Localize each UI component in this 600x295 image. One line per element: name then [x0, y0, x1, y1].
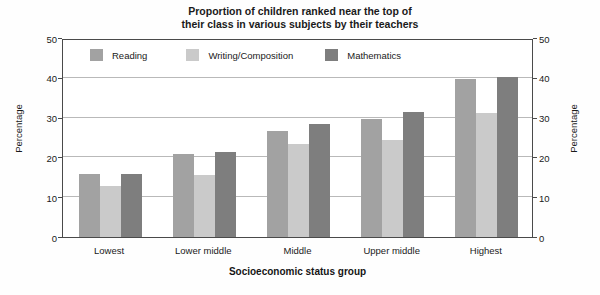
bar: [403, 112, 424, 237]
bar: [476, 113, 497, 237]
y-axis-right-tick-0: 0: [539, 234, 544, 244]
tickmark-right-30: [533, 118, 537, 119]
bar: [194, 175, 215, 237]
chart-title-line-1: Proportion of children ranked near the t…: [130, 5, 470, 18]
bar: [361, 119, 382, 237]
y-axis-right-tick-labels: 01020304050: [539, 39, 565, 238]
chart-figure: Proportion of children ranked near the t…: [0, 0, 600, 295]
bar-group: [251, 40, 345, 237]
legend-entry: Mathematics: [325, 49, 401, 61]
legend-swatch-icon: [186, 49, 199, 61]
bar: [455, 79, 476, 237]
y-axis-right-tick-50: 50: [539, 35, 550, 45]
bar: [173, 154, 194, 237]
legend-entry: Reading: [90, 49, 147, 61]
bar: [121, 174, 142, 237]
x-axis-tick-label: Highest: [439, 245, 533, 256]
legend-label: Writing/Composition: [208, 50, 293, 61]
tickmark-right-20: [533, 157, 537, 158]
bar: [100, 186, 121, 237]
bar: [497, 77, 518, 237]
tickmark-right-40: [533, 78, 537, 79]
y-axis-right-tickmarks: [533, 39, 537, 238]
y-axis-right-tick-20: 20: [539, 154, 550, 164]
y-axis-right-tick-40: 40: [539, 74, 550, 84]
y-axis-left-title: Percentage: [13, 89, 24, 169]
bar: [382, 140, 403, 238]
y-axis-left-tick-10: 10: [46, 194, 57, 204]
bar-group: [157, 40, 251, 237]
y-axis-left-tick-50: 50: [46, 35, 57, 45]
chart-legend: ReadingWriting/CompositionMathematics: [90, 47, 401, 63]
x-axis-tick-labels: LowestLower middleMiddleUpper middleHigh…: [62, 245, 533, 259]
bar: [215, 152, 236, 237]
y-axis-left-tick-labels: 01020304050: [28, 39, 57, 238]
legend-swatch-icon: [325, 49, 338, 61]
tickmark-right-50: [533, 38, 537, 39]
x-axis-tick-label: Middle: [250, 245, 344, 256]
bar-group: [63, 40, 157, 237]
tickmark-right-0: [533, 237, 537, 238]
legend-label: Mathematics: [347, 50, 401, 61]
bar: [309, 124, 330, 237]
bar-group: [346, 40, 440, 237]
bars-layer: [63, 40, 532, 237]
chart-title-line-2: their class in various subjects by their…: [130, 18, 470, 31]
y-axis-left-tick-30: 30: [46, 114, 57, 124]
bar: [288, 144, 309, 237]
y-axis-right-tick-10: 10: [539, 194, 550, 204]
tickmark-right-10: [533, 197, 537, 198]
bar-group: [440, 40, 534, 237]
x-axis-title: Socioeconomic status group: [62, 266, 533, 277]
plot-area: [62, 39, 533, 238]
legend-swatch-icon: [90, 49, 103, 61]
x-axis-tick-label: Lower middle: [156, 245, 250, 256]
legend-label: Reading: [112, 50, 147, 61]
x-axis-tick-label: Upper middle: [345, 245, 439, 256]
y-axis-left-tick-20: 20: [46, 154, 57, 164]
y-axis-left-tick-40: 40: [46, 74, 57, 84]
legend-entry: Writing/Composition: [186, 49, 293, 61]
y-axis-right-title: Percentage: [568, 89, 579, 169]
bar: [79, 174, 100, 237]
y-axis-right-tick-30: 30: [539, 114, 550, 124]
x-axis-tick-label: Lowest: [62, 245, 156, 256]
chart-title: Proportion of children ranked near the t…: [130, 5, 470, 31]
y-axis-left-tick-0: 0: [52, 234, 57, 244]
bar: [267, 131, 288, 237]
